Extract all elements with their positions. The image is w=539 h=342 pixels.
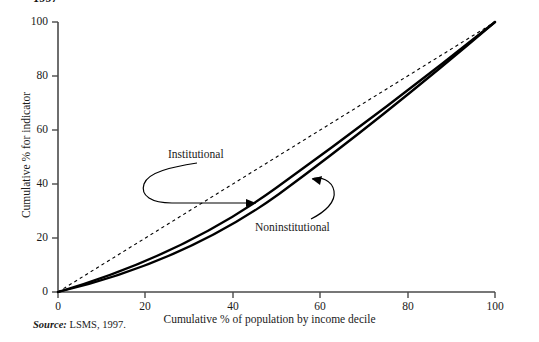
y-axis-ticks xyxy=(52,22,58,292)
y-axis-title: Cumulative % for indicator xyxy=(20,45,32,265)
source-note-text: LSMS, 1997. xyxy=(69,319,125,330)
lorenz-curve-chart xyxy=(0,0,539,342)
x-tick-label-20: 20 xyxy=(125,300,165,312)
source-note: Source: LSMS, 1997. xyxy=(33,319,126,330)
x-tick-label-100: 100 xyxy=(475,300,515,312)
line-of-equality xyxy=(58,22,495,292)
x-tick-label-60: 60 xyxy=(300,300,340,312)
x-tick-label-40: 40 xyxy=(213,300,253,312)
annotation-institutional: Institutional xyxy=(168,148,224,160)
annotation-noninstitutional: Noninstitutional xyxy=(255,221,330,233)
source-note-label: Source: xyxy=(33,319,67,330)
figure-container: 1997 xyxy=(0,0,539,342)
x-tick-label-0: 0 xyxy=(38,300,78,312)
x-tick-label-80: 80 xyxy=(388,300,428,312)
institutional-annotation-arrow xyxy=(143,163,256,207)
y-tick-label-0: 0 xyxy=(12,285,48,297)
noninstitutional-annotation-arrow xyxy=(311,176,334,219)
y-tick-label-100: 100 xyxy=(12,15,48,27)
x-axis-ticks xyxy=(58,292,495,298)
